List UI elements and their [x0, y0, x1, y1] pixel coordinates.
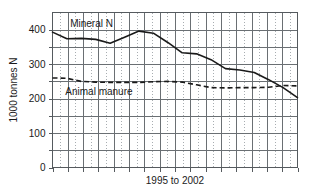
y-axis-title: 1000 tonnes N — [8, 57, 19, 122]
y-axis-tick-marks — [49, 31, 53, 169]
line-chart: 0100200300400 Mineral N Animal manure 19… — [0, 0, 312, 192]
chart-page: 0100200300400 Mineral N Animal manure 19… — [0, 0, 312, 192]
y-tick-label-0: 0 — [40, 162, 46, 173]
series-label-animal-manure: Animal manure — [65, 86, 133, 97]
y-tick-label-300: 300 — [29, 59, 46, 70]
y-axis-tick-labels: 0100200300400 — [29, 24, 46, 173]
x-axis-title: 1995 to 2002 — [146, 175, 205, 186]
y-tick-label-400: 400 — [29, 24, 46, 35]
y-tick-label-200: 200 — [29, 93, 46, 104]
x-axis-tick-marks — [54, 168, 299, 172]
series-label-mineral-n: Mineral N — [70, 18, 113, 29]
y-tick-label-100: 100 — [29, 128, 46, 139]
